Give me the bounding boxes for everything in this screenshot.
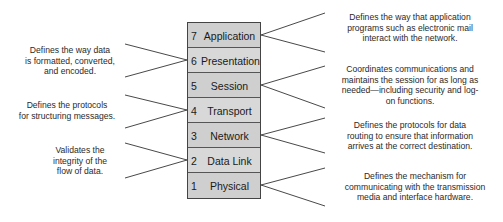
layer-number: 3 (191, 130, 197, 142)
desc-line: Defines the protocols (8, 100, 126, 111)
osi-diagram: 7 Application 6 Presentation 5 Session 4… (0, 0, 503, 222)
desc-line: maintains the session for as long as (320, 75, 500, 86)
connector-l1-bottom (261, 185, 325, 206)
description-session: Coordinates communications and maintains… (320, 64, 500, 106)
osi-layer-stack: 7 Application 6 Presentation 5 Session 4… (187, 22, 261, 199)
desc-line: Validates the (40, 145, 120, 156)
layer-name: Data Link (201, 155, 258, 167)
description-presentation: Defines the way data is formatted, conve… (14, 45, 126, 77)
connector-l5-top (261, 66, 325, 85)
layer-number: 6 (191, 55, 197, 67)
desc-line: is formatted, converted, (14, 56, 126, 67)
desc-line: routing to ensure that information (320, 131, 500, 142)
desc-line: media and interface hardware. (325, 192, 503, 203)
desc-line: Defines the way data (14, 45, 126, 56)
description-network: Defines the protocols for data routing t… (320, 120, 500, 152)
layer-physical: 1 Physical (188, 173, 260, 198)
layer-presentation: 6 Presentation (188, 48, 260, 73)
connector-l1-top (261, 168, 325, 185)
desc-line: Coordinates communications and (320, 64, 500, 75)
layer-name: Session (201, 80, 258, 92)
connector-l6-top (125, 44, 187, 60)
description-physical: Defines the mechanism for communicating … (325, 171, 503, 203)
layer-name: Presentation (201, 55, 258, 67)
layer-application: 7 Application (188, 23, 260, 48)
connector-l3-bottom (261, 135, 325, 153)
description-application: Defines the way that application program… (320, 12, 500, 44)
connector-l2-top (125, 143, 187, 160)
desc-line: flow of data. (40, 166, 120, 177)
layer-network: 3 Network (188, 123, 260, 148)
layer-name: Transport (201, 105, 258, 117)
connector-l3-top (261, 118, 325, 135)
connector-l4-top (125, 95, 187, 110)
layer-number: 4 (191, 105, 197, 117)
layer-name: Application (201, 30, 258, 42)
desc-line: integrity of the (40, 156, 120, 167)
desc-line: Defines the mechanism for (325, 171, 503, 182)
desc-line: needed—including security and log- (320, 85, 500, 96)
layer-name: Network (201, 130, 258, 142)
desc-line: for structuring messages. (8, 111, 126, 122)
desc-line: programs such as electronic mail (320, 23, 500, 34)
desc-line: and encoded. (14, 66, 126, 77)
desc-line: communicating with the transmission (325, 182, 503, 193)
desc-line: interact with the network. (320, 33, 500, 44)
connector-l7-top (261, 13, 325, 35)
description-data-link: Validates the integrity of the flow of d… (40, 145, 120, 177)
connector-l2-bottom (125, 160, 187, 178)
layer-name: Physical (201, 180, 258, 192)
connector-l4-bottom (125, 110, 187, 128)
layer-number: 5 (191, 80, 197, 92)
desc-line: Defines the protocols for data (320, 120, 500, 131)
layer-transport: 4 Transport (188, 98, 260, 123)
description-transport: Defines the protocols for structuring me… (8, 100, 126, 121)
connector-l6-bottom (125, 60, 187, 77)
layer-number: 2 (191, 155, 197, 167)
layer-data-link: 2 Data Link (188, 148, 260, 173)
layer-number: 1 (191, 180, 197, 192)
layer-session: 5 Session (188, 73, 260, 98)
desc-line: on functions. (320, 96, 500, 107)
desc-line: Defines the way that application (320, 12, 500, 23)
desc-line: arrives at the correct destination. (320, 141, 500, 152)
layer-number: 7 (191, 30, 197, 42)
connector-l5-bottom (261, 85, 325, 108)
connector-l7-bottom (261, 35, 325, 52)
